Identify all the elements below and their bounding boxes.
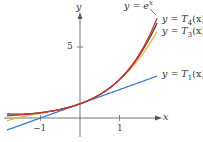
label-t3-main: y = T bbox=[162, 25, 188, 36]
curve-t3 bbox=[7, 32, 157, 121]
curves bbox=[7, 18, 157, 130]
y-tick-label-5: 5 bbox=[67, 41, 73, 51]
curve-exp bbox=[7, 18, 157, 116]
label-t4-main: y = T bbox=[162, 13, 188, 24]
label-t1-main: y = T bbox=[162, 68, 188, 79]
label-t1-tail: (x) bbox=[192, 68, 203, 79]
x-axis-arrow-icon bbox=[155, 116, 162, 121]
label-exp: y = ex bbox=[124, 0, 153, 11]
y-axis-label: y bbox=[76, 1, 81, 12]
label-t4-tail: (x) bbox=[192, 13, 203, 24]
label-t1: y = T1(x) bbox=[162, 68, 203, 82]
x-axis-label: x bbox=[163, 111, 168, 122]
x-tick-label-neg1: −1 bbox=[33, 123, 46, 133]
axes bbox=[4, 12, 162, 137]
y-axis-arrow-icon bbox=[78, 12, 83, 19]
label-exp-main: y = e bbox=[124, 0, 149, 11]
label-t3: y = T3(x) bbox=[162, 25, 203, 39]
x-tick-label-1: 1 bbox=[117, 123, 123, 133]
curve-t4 bbox=[7, 23, 157, 114]
label-t3-tail: (x) bbox=[192, 25, 203, 36]
label-exp-sup: x bbox=[149, 0, 153, 7]
